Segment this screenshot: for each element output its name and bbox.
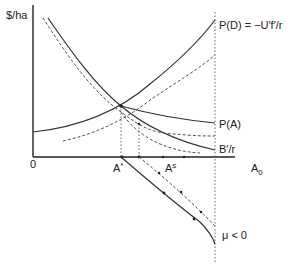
y-axis-label: $/ha <box>6 9 28 21</box>
a-s-sup: s <box>172 161 176 170</box>
arrow-dot <box>200 211 203 214</box>
trajectory-dashed <box>139 157 215 226</box>
economic-diagram: $/ha 0 P(D) = −U′f′/r P(A) B′/r A* As A0… <box>0 0 288 269</box>
mu-label: μ < 0 <box>222 229 247 241</box>
arrow-dot <box>180 191 183 194</box>
arrow-dot <box>158 172 161 175</box>
br-label: B′/r <box>219 143 235 155</box>
pa-curve <box>48 18 215 123</box>
axis-arrow-dot <box>162 156 165 159</box>
pd-curve <box>33 20 215 132</box>
axis-arrow-dot <box>183 156 186 159</box>
pd-label: P(D) = −U′f′/r <box>219 19 283 31</box>
arrow-dot <box>163 192 166 195</box>
intersection-dot <box>119 104 123 108</box>
origin-label: 0 <box>30 158 36 170</box>
a0-sub: 0 <box>258 168 263 177</box>
a0-label: A0 <box>251 162 263 177</box>
intersection-dot-dashed <box>138 123 141 126</box>
arrow-dot <box>193 218 196 221</box>
a-star-sup: * <box>120 161 123 170</box>
pa-label: P(A) <box>219 118 241 130</box>
a-s-label: As <box>165 161 176 174</box>
pa-dashed-curve <box>43 18 215 136</box>
a-star-label: A* <box>113 161 123 174</box>
